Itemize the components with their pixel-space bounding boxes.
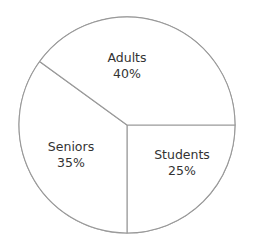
slice-label-seniors: Seniors 35% — [28, 139, 114, 170]
slice-label-adults: Adults 40% — [77, 50, 177, 81]
slice-label-adults-name: Adults — [77, 50, 177, 66]
chart-canvas: Museum Patrons Adults 40% Seniors 35% St… — [0, 0, 253, 241]
slice-label-seniors-name: Seniors — [28, 139, 114, 155]
slice-label-seniors-percent: 35% — [28, 155, 114, 171]
pie-chart — [0, 0, 253, 241]
slice-label-students-percent: 25% — [136, 163, 228, 179]
slice-label-students: Students 25% — [136, 147, 228, 178]
pie-slice-students[interactable] — [127, 125, 235, 233]
slice-label-students-name: Students — [136, 147, 228, 163]
slice-label-adults-percent: 40% — [77, 66, 177, 82]
